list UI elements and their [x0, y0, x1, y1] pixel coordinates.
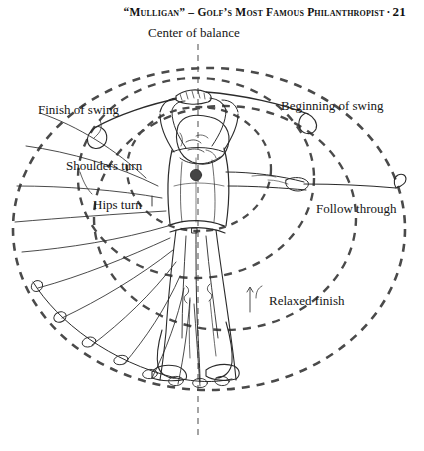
label-follow-through: Follow through — [316, 202, 397, 216]
label-shoulders-turn: Shoulders turn — [66, 159, 142, 173]
leader-finish-of-swing — [94, 120, 101, 138]
golf-swing-illustration — [0, 0, 424, 451]
club-head-trace — [29, 278, 232, 387]
label-relaxed-finish: Relaxed finish — [269, 294, 344, 308]
club-sweep-fan — [15, 113, 200, 386]
label-hips-turn: Hips turn — [93, 198, 142, 212]
golf-ball — [190, 169, 201, 180]
leader-shoulders-turn — [80, 172, 92, 194]
label-finish-of-swing: Finish of swing — [38, 103, 119, 117]
book-page: “Mulligan” – Golf’s Most Famous Philanth… — [0, 0, 424, 451]
label-beginning-of-swing: Beginning of swing — [281, 99, 384, 113]
leader-relaxed-finish — [256, 286, 262, 298]
golfer-head — [177, 115, 229, 164]
line-art-group — [15, 90, 406, 388]
label-center-of-balance: Center of balance — [148, 26, 240, 40]
golfer-lower-body — [152, 221, 239, 382]
